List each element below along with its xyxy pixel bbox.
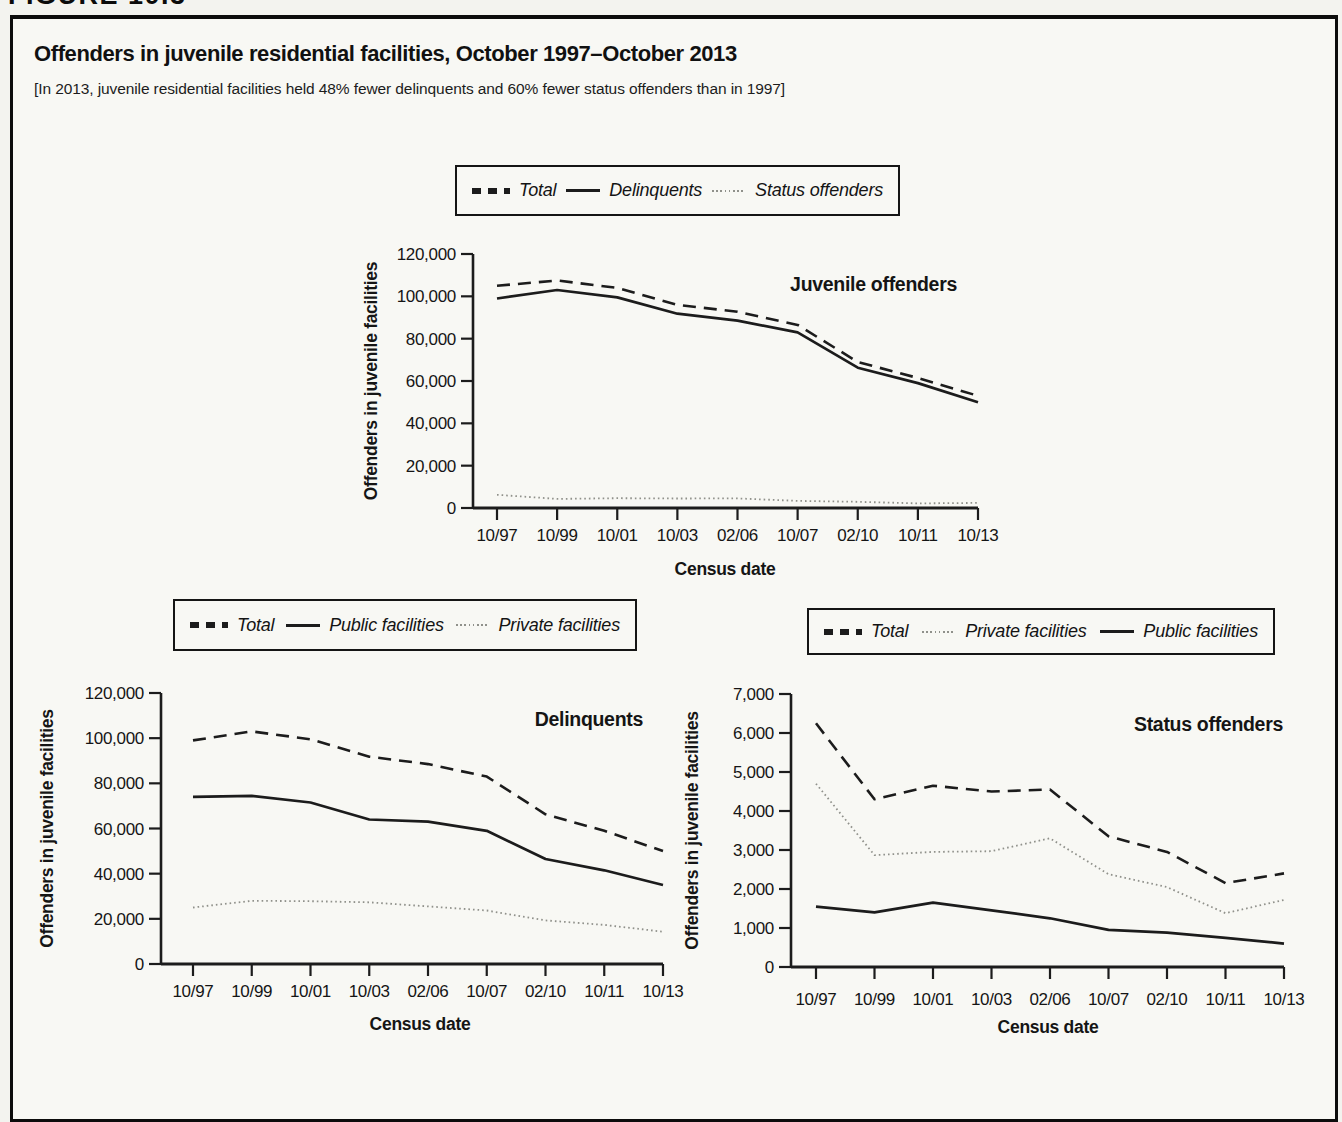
x-tick-label: 10/11 xyxy=(1206,990,1246,1009)
y-tick-label: 0 xyxy=(447,499,456,518)
y-tick-label: 1,000 xyxy=(733,919,774,938)
x-tick-label: 10/97 xyxy=(172,982,213,1001)
legend-item-public-facilities: Public facilities xyxy=(286,615,444,636)
y-axis-title: Offenders in juvenile facilities xyxy=(682,711,702,950)
y-tick-label: 100,000 xyxy=(85,729,144,748)
x-tick-label: 10/11 xyxy=(584,982,624,1001)
y-tick-label: 5,000 xyxy=(733,763,774,782)
legend-item-total: Total xyxy=(190,615,274,636)
x-tick-label: 10/13 xyxy=(957,526,998,545)
legend-status-offenders: TotalPrivate facilitiesPublic facilities xyxy=(807,608,1275,655)
y-axis-title: Offenders in juvenile facilities xyxy=(361,261,381,500)
series-line-total xyxy=(193,731,663,851)
figure-title: Offenders in juvenile residential facili… xyxy=(34,41,737,67)
legend-line-dashed-icon xyxy=(824,629,862,635)
legend-label-total: Total xyxy=(519,180,556,201)
series-line-status-offenders xyxy=(497,495,978,504)
series-line-delinquents xyxy=(497,290,978,402)
y-tick-label: 20,000 xyxy=(406,457,456,476)
legend-label-total: Total xyxy=(871,621,908,642)
legend-line-solid-icon xyxy=(1100,630,1134,633)
x-axis-title: Census date xyxy=(998,1017,1099,1037)
series-line-public-facilities xyxy=(816,903,1284,944)
legend-label-private-facilities: Private facilities xyxy=(499,615,620,636)
legend-label-private-facilities: Private facilities xyxy=(965,621,1086,642)
series-line-public-facilities xyxy=(193,796,663,885)
x-tick-label: 10/99 xyxy=(854,990,895,1009)
x-tick-label: 02/06 xyxy=(717,526,758,545)
x-tick-label: 10/97 xyxy=(795,990,836,1009)
legend-item-public-facilities: Public facilities xyxy=(1100,621,1258,642)
x-tick-label: 02/10 xyxy=(1146,990,1187,1009)
x-tick-label: 02/10 xyxy=(837,526,878,545)
x-tick-label: 02/06 xyxy=(1029,990,1070,1009)
y-tick-label: 40,000 xyxy=(406,414,456,433)
legend-label-public-facilities: Public facilities xyxy=(1143,621,1258,642)
series-line-total xyxy=(497,281,978,396)
x-tick-label: 10/11 xyxy=(898,526,938,545)
series-line-private-facilities xyxy=(193,901,663,932)
x-tick-label: 10/07 xyxy=(1088,990,1129,1009)
legend-line-dashed-icon xyxy=(472,188,510,194)
y-tick-label: 60,000 xyxy=(406,372,456,391)
y-tick-label: 120,000 xyxy=(85,684,144,703)
y-tick-label: 80,000 xyxy=(94,774,144,793)
y-tick-label: 3,000 xyxy=(733,841,774,860)
x-axis-title: Census date xyxy=(370,1014,471,1034)
legend-label-total: Total xyxy=(237,615,274,636)
y-tick-label: 40,000 xyxy=(94,865,144,884)
legend-item-private-facilities: Private facilities xyxy=(922,621,1086,642)
chart-title: Delinquents xyxy=(535,708,644,730)
x-tick-label: 10/01 xyxy=(290,982,331,1001)
legend-label-public-facilities: Public facilities xyxy=(329,615,444,636)
x-tick-label: 10/03 xyxy=(349,982,390,1001)
figure-number-label: FIGURE 10.3 xyxy=(8,0,187,11)
y-tick-label: 0 xyxy=(765,958,774,977)
legend-item-delinquents: Delinquents xyxy=(566,180,702,201)
status-offenders-chart: 01,0002,0003,0004,0005,0006,0007,00010/9… xyxy=(655,673,1342,1058)
legend-item-status-offenders: Status offenders xyxy=(712,180,883,201)
delinquents-chart: 020,00040,00060,00080,000100,000120,0001… xyxy=(20,673,710,1058)
legend-delinquents: TotalPublic facilitiesPrivate facilities xyxy=(173,599,637,651)
legend-line-dashed-icon xyxy=(190,622,228,628)
y-axis-title: Offenders in juvenile facilities xyxy=(37,709,57,948)
figure-subtitle: [In 2013, juvenile residential facilitie… xyxy=(34,80,785,98)
x-tick-label: 10/97 xyxy=(476,526,517,545)
legend-item-private-facilities: Private facilities xyxy=(456,615,620,636)
series-line-total xyxy=(816,723,1284,883)
y-tick-label: 7,000 xyxy=(733,685,774,704)
y-tick-label: 120,000 xyxy=(397,245,456,264)
legend-item-total: Total xyxy=(824,621,908,642)
y-tick-label: 60,000 xyxy=(94,820,144,839)
series-line-private-facilities xyxy=(816,784,1284,914)
x-tick-label: 10/03 xyxy=(971,990,1012,1009)
figure-box: Offenders in juvenile residential facili… xyxy=(10,15,1338,1122)
x-tick-label: 10/99 xyxy=(231,982,272,1001)
juvenile-offenders-chart: 020,00040,00060,00080,000100,000120,0001… xyxy=(330,237,1030,597)
y-tick-label: 0 xyxy=(135,955,144,974)
legend-line-solid-icon xyxy=(566,189,600,192)
y-tick-label: 80,000 xyxy=(406,330,456,349)
y-tick-label: 4,000 xyxy=(733,802,774,821)
legend-line-solid-icon xyxy=(286,624,320,627)
y-tick-label: 20,000 xyxy=(94,910,144,929)
legend-line-dotted-icon xyxy=(712,190,746,192)
chart-title: Juvenile offenders xyxy=(790,273,957,295)
x-tick-label: 10/03 xyxy=(657,526,698,545)
x-tick-label: 10/01 xyxy=(597,526,638,545)
x-axis-title: Census date xyxy=(675,559,776,579)
y-tick-label: 2,000 xyxy=(733,880,774,899)
x-tick-label: 10/07 xyxy=(777,526,818,545)
y-tick-label: 6,000 xyxy=(733,724,774,743)
x-tick-label: 02/06 xyxy=(407,982,448,1001)
legend-label-status-offenders: Status offenders xyxy=(755,180,883,201)
legend-item-total: Total xyxy=(472,180,556,201)
x-tick-label: 02/10 xyxy=(525,982,566,1001)
x-tick-label: 10/13 xyxy=(1263,990,1304,1009)
x-tick-label: 10/99 xyxy=(537,526,578,545)
chart-title: Status offenders xyxy=(1134,713,1284,735)
legend-line-dotted-icon xyxy=(922,631,956,633)
legend-juvenile-offenders: TotalDelinquentsStatus offenders xyxy=(455,165,900,216)
x-tick-label: 10/07 xyxy=(466,982,507,1001)
